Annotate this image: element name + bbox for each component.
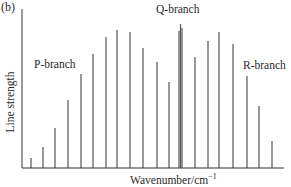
y-axis-label: Line strength <box>4 62 16 142</box>
p-branch-label: P-branch <box>34 58 76 70</box>
q-branch-label: Q-branch <box>156 3 199 15</box>
r-branch-label: R-branch <box>243 59 286 71</box>
x-axis-label-superscript: −1 <box>208 172 217 181</box>
x-axis-label-text: Wavenumber/cm <box>130 174 208 186</box>
stick-spectrum-plot <box>0 0 291 187</box>
x-axis-label: Wavenumber/cm−1 <box>130 172 217 186</box>
spectral-lines <box>31 24 272 168</box>
axes <box>22 9 284 168</box>
